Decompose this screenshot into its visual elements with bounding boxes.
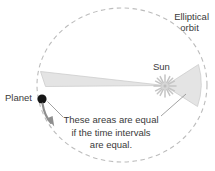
swept-area-left [41, 72, 165, 87]
caption-equal-areas: These areas are equal if the time interv… [52, 114, 170, 152]
caption-line-2: if the time intervals [52, 127, 170, 140]
label-elliptical-orbit-line2: orbit [174, 22, 209, 33]
kepler-second-law-figure: Elliptical orbit Sun Planet These areas … [0, 0, 215, 171]
caption-line-1: These areas are equal [52, 114, 170, 127]
label-planet: Planet [5, 92, 32, 103]
planet-dot [37, 94, 46, 103]
caption-line-3: are equal. [52, 139, 170, 152]
label-sun: Sun [153, 61, 170, 72]
label-elliptical-orbit: Elliptical orbit [174, 11, 209, 33]
sun-center-dot [164, 85, 167, 88]
label-elliptical-orbit-line1: Elliptical [174, 11, 209, 22]
